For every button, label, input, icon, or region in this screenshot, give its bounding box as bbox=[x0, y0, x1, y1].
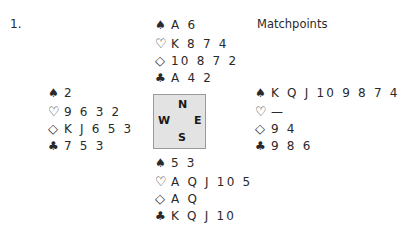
south-hand: ♠5 3 ♡A Q J 10 5 ◇A Q ♣K Q J 10 bbox=[155, 155, 252, 225]
north-clubs: ♣A 4 2 bbox=[155, 70, 238, 88]
club-icon: ♣ bbox=[155, 70, 171, 88]
east-diamonds: ◇9 4 bbox=[255, 120, 400, 138]
club-icon: ♣ bbox=[155, 208, 171, 226]
north-hearts: ♡K 8 7 4 bbox=[155, 35, 238, 53]
south-spades: ♠5 3 bbox=[155, 155, 252, 173]
compass-north: N bbox=[178, 98, 187, 111]
heart-icon: ♡ bbox=[255, 103, 271, 121]
north-diamonds-cards: 10 8 7 2 bbox=[171, 54, 238, 68]
heart-icon: ♡ bbox=[155, 173, 171, 191]
problem-number: 1. bbox=[10, 17, 21, 31]
scoring-label: Matchpoints bbox=[257, 17, 327, 31]
east-hearts: ♡— bbox=[255, 103, 400, 121]
east-diamonds-cards: 9 4 bbox=[271, 122, 297, 136]
west-spades-cards: 2 bbox=[64, 86, 74, 100]
east-hand: ♠K Q J 10 9 8 7 4 ♡— ◇9 4 ♣9 8 6 bbox=[255, 85, 400, 155]
east-hearts-cards: — bbox=[271, 105, 285, 119]
west-clubs-cards: 7 5 3 bbox=[64, 139, 106, 153]
east-clubs-cards: 9 8 6 bbox=[271, 139, 313, 153]
compass-east: E bbox=[194, 114, 202, 127]
north-spades-cards: A 6 bbox=[171, 18, 197, 32]
compass-box: N W E S bbox=[153, 94, 206, 149]
north-clubs-cards: A 4 2 bbox=[171, 71, 213, 85]
east-clubs: ♣9 8 6 bbox=[255, 138, 400, 156]
spade-icon: ♠ bbox=[48, 85, 64, 103]
south-diamonds-cards: A Q bbox=[171, 192, 199, 206]
west-hearts-cards: 9 6 3 2 bbox=[64, 105, 121, 119]
south-hearts: ♡A Q J 10 5 bbox=[155, 173, 252, 191]
north-hand: ♠A 6 ♡K 8 7 4 ◇10 8 7 2 ♣A 4 2 bbox=[155, 17, 238, 87]
compass-south: S bbox=[178, 131, 186, 144]
club-icon: ♣ bbox=[48, 138, 64, 156]
heart-icon: ♡ bbox=[48, 103, 64, 121]
club-icon: ♣ bbox=[255, 138, 271, 156]
north-spades: ♠A 6 bbox=[155, 17, 238, 35]
west-clubs: ♣7 5 3 bbox=[48, 138, 133, 156]
south-clubs-cards: K Q J 10 bbox=[171, 209, 236, 223]
west-diamonds-cards: K J 6 5 3 bbox=[64, 122, 133, 136]
south-hearts-cards: A Q J 10 5 bbox=[171, 175, 252, 189]
compass-west: W bbox=[158, 114, 170, 127]
west-hearts: ♡9 6 3 2 bbox=[48, 103, 133, 121]
west-diamonds: ◇K J 6 5 3 bbox=[48, 120, 133, 138]
north-diamonds: ◇10 8 7 2 bbox=[155, 52, 238, 70]
south-clubs: ♣K Q J 10 bbox=[155, 208, 252, 226]
diamond-icon: ◇ bbox=[155, 52, 171, 70]
east-spades: ♠K Q J 10 9 8 7 4 bbox=[255, 85, 400, 103]
south-spades-cards: 5 3 bbox=[171, 156, 197, 170]
diamond-icon: ◇ bbox=[48, 120, 64, 138]
diamond-icon: ◇ bbox=[155, 190, 171, 208]
diamond-icon: ◇ bbox=[255, 120, 271, 138]
west-hand: ♠2 ♡9 6 3 2 ◇K J 6 5 3 ♣7 5 3 bbox=[48, 85, 133, 155]
south-diamonds: ◇A Q bbox=[155, 190, 252, 208]
spade-icon: ♠ bbox=[255, 85, 271, 103]
west-spades: ♠2 bbox=[48, 85, 133, 103]
heart-icon: ♡ bbox=[155, 35, 171, 53]
spade-icon: ♠ bbox=[155, 17, 171, 35]
spade-icon: ♠ bbox=[155, 155, 171, 173]
east-spades-cards: K Q J 10 9 8 7 4 bbox=[271, 86, 400, 100]
north-hearts-cards: K 8 7 4 bbox=[171, 37, 229, 51]
